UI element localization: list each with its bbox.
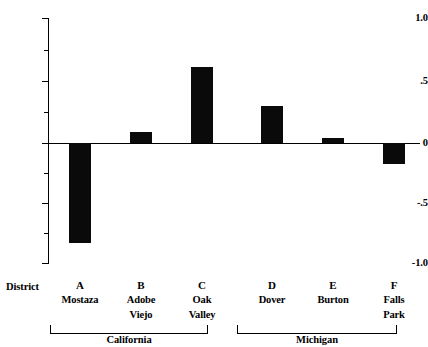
group-label-california: California (50, 334, 208, 345)
y-tick-label-1.0: 1.0 (390, 13, 428, 24)
x-label-F: F Falls Park (360, 279, 428, 321)
x-code-F: F (360, 279, 428, 292)
x-code-C: C (168, 279, 236, 292)
y-tick-label-0.5: .5 (390, 76, 428, 87)
x-name-D-line1: Dover (238, 294, 306, 307)
x-code-D: D (238, 279, 306, 292)
x-axis-caption: District (6, 281, 39, 292)
y-tick-minor-neg0.25 (44, 173, 49, 174)
bar-B (130, 132, 152, 143)
y-tick-label-neg0.5: -.5 (390, 198, 428, 209)
group-bracket-michigan (237, 325, 397, 334)
y-tick-neg1.0 (42, 263, 49, 264)
zero-baseline (48, 143, 420, 144)
x-label-E: E Burton (299, 279, 367, 309)
bar-D (261, 106, 283, 144)
x-code-A: A (46, 279, 114, 292)
y-tick-minor-0.25 (44, 112, 49, 113)
x-name-F-line2: Park (360, 309, 428, 322)
bar-E (322, 138, 344, 143)
x-name-C-line1: Oak (168, 294, 236, 307)
x-name-B-line1: Adobe (107, 294, 175, 307)
y-axis-line (48, 18, 49, 263)
y-tick-neg0.5 (42, 203, 49, 204)
x-label-B: B Adobe Viejo (107, 279, 175, 321)
x-name-A-line1: Mostaza (46, 294, 114, 307)
y-tick-minor-neg0.75 (44, 233, 49, 234)
x-code-E: E (299, 279, 367, 292)
bar-chart: 1.0 .5 0 -.5 -1.0 District A Mostaza B A… (0, 0, 428, 347)
x-label-C: C Oak Valley (168, 279, 236, 321)
bar-A (69, 143, 91, 243)
x-name-E-line1: Burton (299, 294, 367, 307)
y-tick-1.0 (42, 18, 49, 19)
x-label-D: D Dover (238, 279, 306, 309)
x-name-C-line2: Valley (168, 309, 236, 322)
x-name-F-line1: Falls (360, 294, 428, 307)
y-tick-minor-0.75 (44, 50, 49, 51)
group-bracket-california (50, 325, 208, 334)
x-code-B: B (107, 279, 175, 292)
group-label-michigan: Michigan (237, 334, 397, 345)
x-name-B-line2: Viejo (107, 309, 175, 322)
x-label-A: A Mostaza (46, 279, 114, 309)
y-tick-label-neg1.0: -1.0 (390, 258, 428, 269)
bar-F (383, 143, 405, 164)
bar-C (191, 67, 213, 143)
y-tick-0.5 (42, 81, 49, 82)
